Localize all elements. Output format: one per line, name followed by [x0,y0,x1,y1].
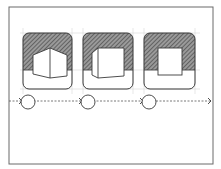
timeline-node [81,95,95,109]
diagram-canvas [0,0,221,169]
timeline-node [21,95,35,109]
outer-frame [9,7,213,164]
cube-rotated-icon [92,48,124,78]
panel-2 [83,33,133,89]
panel-1 [23,33,72,89]
panel-3 [144,33,195,89]
square-icon [158,48,182,75]
timeline [9,95,211,109]
timeline-node [142,95,156,109]
